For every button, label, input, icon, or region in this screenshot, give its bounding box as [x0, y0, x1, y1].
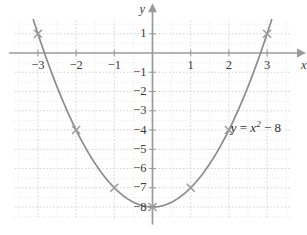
y-tick-label: −2 — [123, 85, 147, 98]
x-axis-label: x — [301, 59, 307, 72]
x-tick-label: −3 — [24, 59, 52, 72]
y-tick-label: −1 — [123, 66, 147, 79]
x-tick-label: 3 — [253, 59, 281, 72]
y-tick-label: −8 — [123, 201, 147, 214]
y-tick-label: −4 — [123, 124, 147, 137]
y-axis-label: y — [140, 3, 146, 16]
equation-constant: 8 — [274, 120, 281, 135]
y-tick-label: −6 — [123, 162, 147, 175]
equation-annotation: y = x2 − 8 — [231, 120, 281, 134]
x-tick-label: −2 — [62, 59, 90, 72]
equation-equals: = — [240, 120, 247, 135]
axis-lines — [9, 3, 306, 224]
y-tick-label: −3 — [123, 104, 147, 117]
y-tick-label: −7 — [123, 181, 147, 194]
parabola-graph-figure: −3−2−11231−1−2−3−4−5−6−7−8 x y y = x2 − … — [0, 0, 307, 235]
y-tick-label: −5 — [123, 143, 147, 156]
x-tick-label: 1 — [177, 59, 205, 72]
graph-canvas — [0, 0, 307, 235]
x-tick-label: 2 — [215, 59, 243, 72]
y-tick-label: 1 — [123, 27, 147, 40]
